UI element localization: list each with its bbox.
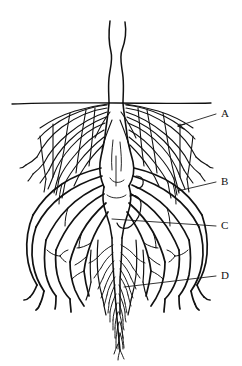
label-d: D	[221, 270, 229, 281]
leader-line-c	[112, 219, 216, 226]
plant-stem	[109, 21, 126, 103]
leader-line-d	[124, 276, 216, 287]
label-a: A	[221, 108, 229, 119]
fibrous-root-zone-a	[20, 104, 213, 198]
label-c: C	[221, 220, 228, 231]
crown-texture	[107, 140, 126, 198]
label-b: B	[221, 176, 228, 187]
figure-canvas: A B C D	[0, 0, 242, 366]
soil-line	[12, 103, 211, 104]
root-system-drawing	[0, 0, 242, 366]
